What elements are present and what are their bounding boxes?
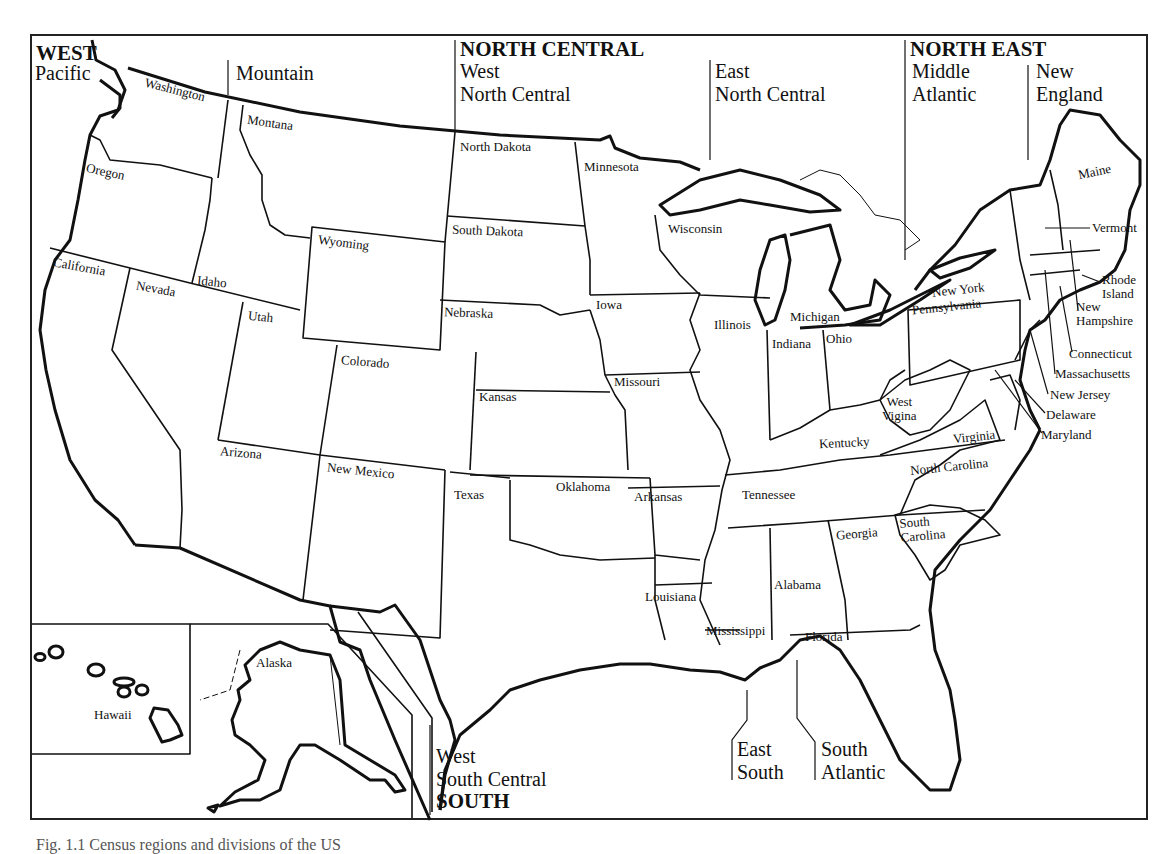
border-ms-al xyxy=(770,528,772,640)
state-label-minnesota: Minnesota xyxy=(584,160,639,174)
leader-rhode-island xyxy=(1082,275,1100,282)
region-west-label: WEST xyxy=(36,42,97,64)
border-or-id xyxy=(192,178,212,283)
state-label-arkansas: Arkansas xyxy=(634,490,682,504)
northern-border xyxy=(128,68,700,170)
leader-new-jersey xyxy=(1030,330,1048,394)
state-label-north-dakota: North Dakota xyxy=(460,140,531,154)
border-or-ca-nv-id xyxy=(50,248,300,310)
division-east-south-label: East South xyxy=(737,738,784,784)
hawaii-island-1 xyxy=(35,654,45,661)
region-north-east-label: NORTH EAST xyxy=(910,38,1046,60)
region-north-central-label: NORTH CENTRAL xyxy=(460,38,644,60)
state-label-wisconsin: Wisconsin xyxy=(668,222,722,236)
state-label-florida: Florida xyxy=(805,630,843,644)
state-label-maryland: Maryland xyxy=(1041,428,1092,442)
state-label-rhode-island: Rhode Island xyxy=(1102,273,1136,301)
state-label-alaska: Alaska xyxy=(256,656,292,670)
state-label-west-virginia: West Vigina xyxy=(882,395,917,423)
division-middle-atlantic-label: Middle Atlantic xyxy=(912,60,976,106)
lake-superior xyxy=(660,170,840,215)
leader-massachusetts xyxy=(1045,270,1055,374)
pacific-coast xyxy=(40,40,135,545)
border-ny-ne xyxy=(1010,190,1030,300)
divider-south-atlantic xyxy=(797,660,815,780)
state-label-mississippi: Mississippi xyxy=(706,624,765,638)
division-mountain-label: Mountain xyxy=(236,62,314,85)
state-label-oklahoma: Oklahoma xyxy=(556,480,610,494)
state-label-new-hampshire: New Hampshire xyxy=(1076,300,1133,328)
alaska-island xyxy=(208,805,218,812)
division-east-north-central-label: East North Central xyxy=(715,60,826,106)
state-label-iowa: Iowa xyxy=(596,298,622,312)
border-ct xyxy=(1030,270,1080,275)
border-ar-la xyxy=(655,583,712,585)
hawaii-island-2 xyxy=(49,646,63,658)
border-co-ks xyxy=(470,352,476,470)
state-label-alabama: Alabama xyxy=(774,578,821,592)
state-label-vermont: Vermont xyxy=(1092,221,1137,235)
lake-ontario xyxy=(930,250,995,278)
state-label-south-carolina: South Carolina xyxy=(899,513,946,545)
border-mn-ia xyxy=(590,293,700,295)
border-mo-river xyxy=(590,310,628,470)
border-nv-ut xyxy=(218,302,243,440)
division-new-england-label: New England xyxy=(1036,60,1103,106)
state-label-kentucky: Kentucky xyxy=(819,435,870,452)
hawaii-island-6 xyxy=(136,685,148,695)
state-label-texas: Texas xyxy=(454,488,484,502)
hawaii-island-3 xyxy=(88,664,104,676)
border-mo-ar xyxy=(628,486,720,488)
state-label-utah: Utah xyxy=(247,309,274,326)
state-label-kansas: Kansas xyxy=(479,390,517,404)
state-label-ohio: Ohio xyxy=(826,332,852,346)
division-south-atlantic-label: South Atlantic xyxy=(821,738,885,784)
border-wa-id xyxy=(218,100,228,178)
state-label-nebraska: Nebraska xyxy=(444,305,494,321)
state-label-connecticut: Connecticut xyxy=(1069,347,1132,361)
state-label-michigan: Michigan xyxy=(790,310,840,324)
state-label-louisiana: Louisiana xyxy=(645,590,696,604)
state-label-idaho: Idaho xyxy=(196,273,227,290)
hawaii-inset-border xyxy=(32,624,190,754)
state-label-massachusetts: Massachusetts xyxy=(1055,367,1130,381)
region-south-label: SOUTH xyxy=(436,790,510,812)
hawaii-island-5 xyxy=(118,687,130,697)
state-label-indiana: Indiana xyxy=(772,337,811,351)
state-label-illinois: Illinois xyxy=(714,318,751,332)
border-nm-tx xyxy=(330,470,445,638)
division-west-north-central-label: West North Central xyxy=(460,60,571,106)
state-label-new-jersey: New Jersey xyxy=(1050,388,1110,402)
state-label-delaware: Delaware xyxy=(1046,408,1096,422)
hawaii-island-4 xyxy=(114,678,134,686)
border-ma xyxy=(1030,250,1100,255)
state-label-hawaii: Hawaii xyxy=(94,708,132,722)
border-il-in xyxy=(767,330,770,440)
alaska-inset-border xyxy=(190,624,412,818)
division-west-south-central-label: West South Central xyxy=(436,745,547,791)
division-pacific-label: Pacific xyxy=(35,62,91,85)
figure-caption: Fig. 1.1 Census regions and divisions of… xyxy=(36,836,341,854)
border-ca-nv xyxy=(112,268,182,548)
alaska-dashed-line xyxy=(200,650,240,700)
alaska-outline xyxy=(220,642,405,806)
border-vt-nh xyxy=(1050,170,1063,250)
state-label-missouri: Missouri xyxy=(614,375,660,389)
hawaii-big-island xyxy=(150,708,182,742)
lake-michigan xyxy=(755,235,790,325)
state-label-tennessee: Tennessee xyxy=(742,488,795,502)
state-label-south-dakota: South Dakota xyxy=(452,223,524,239)
